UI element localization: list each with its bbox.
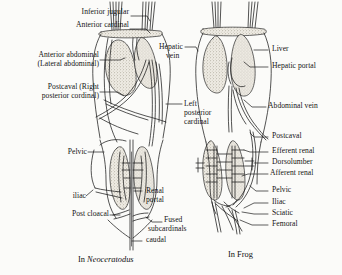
label-hepatic-vein-line2: vein [166,52,179,61]
label-left-posterior-cardinal-line3: cardinal [184,118,209,127]
label-efferent-renal: Efferent renal [272,147,315,156]
leader-pelvic-frog [250,186,268,191]
frog-postcaval [228,86,229,132]
leader-inferior-jugular [131,16,150,21]
leader-iliac-frog [244,203,268,208]
pelvic-vein-left [100,140,126,145]
label-abdominal-vein: Abdominal vein [268,102,318,111]
label-sciatic: Sciatic [272,209,293,218]
caption-frog: In Frog [228,250,253,259]
liver-left [105,40,136,96]
label-post-cloacal: Post cloacal [0,210,109,219]
label-dorsolumber: Dorsolumber [272,158,313,167]
label-fused-subcardinals-line2: subcardinals [148,225,187,234]
label-anterior-cardinal: Anterior cardinal [0,21,129,30]
transverse-sinus-frog [201,27,267,36]
anterior-vessel-bundle-right [142,2,155,31]
label-hepatic-portal: Hepatic portal [272,62,316,71]
label-iliac-frog: Iliac [272,198,286,207]
leader-iliac-left [86,190,93,196]
label-pelvic-frog: Pelvic [272,186,291,195]
frog-body-wall-right [261,33,271,142]
pelvic-vein-frog [224,202,239,213]
label-pelvic-left: Pelvic [0,148,87,157]
leader-sciatic [242,212,268,214]
leader-femoral [240,220,268,225]
label-posterior-cordinal: posterior cordinal) [0,92,99,101]
figure-container: Inferior jugular Anterior cardinal Anter… [0,0,342,275]
frog-anterior-bundle-left [212,2,221,28]
label-caudal: caudal [146,236,166,245]
caption-neoceratodus-taxon: Neoceratodus [87,255,134,264]
label-lateral-abdominal: (Lateral abdominal) [0,60,99,69]
frog-kidney-left [203,141,222,200]
label-inferior-jugular: Inferior jugular [0,8,129,17]
caption-neoceratodus: In Neoceratodus [78,255,134,264]
label-femoral: Femoral [272,220,298,229]
leader-hepatic-vein [185,47,198,51]
leader-afferent-renal [242,174,268,176]
transverse-sinus-left [99,30,163,38]
frog-liver-left-lobe [203,36,227,93]
frog-anterior-bundle-right [248,2,258,28]
label-iliac-left: iliac [0,192,86,201]
leader-abdominal-vein [244,100,266,107]
leader-fused-subcardinals [146,217,162,222]
label-postcaval-frog: Postcaval [272,132,302,141]
label-liver: Liver [272,45,289,54]
caudal-vein [133,213,148,216]
caption-neoceratodus-prefix: In [78,255,87,264]
label-afferent-renal: Afferent renal [270,169,313,178]
sciatic-vein-frog [222,206,233,230]
post-cloacal-vessel [113,210,129,215]
label-renal-portal-line2: portal [146,196,164,205]
